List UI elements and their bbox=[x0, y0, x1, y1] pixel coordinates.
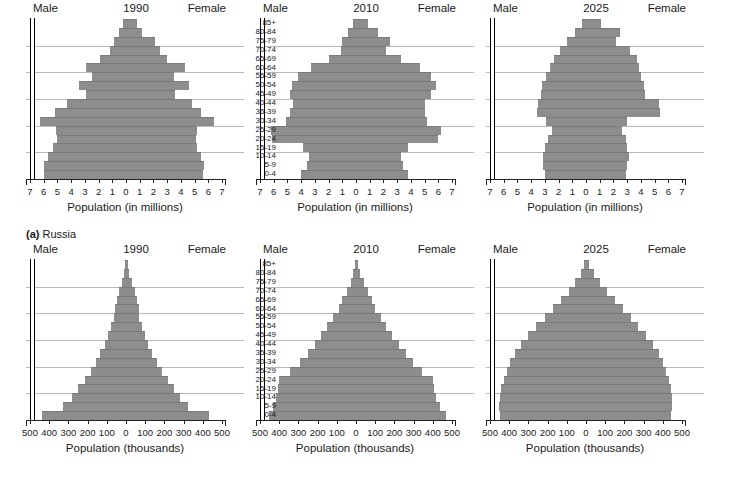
x-tick bbox=[195, 179, 196, 183]
x-tick bbox=[318, 420, 319, 424]
x-tick bbox=[342, 179, 343, 183]
x-tick-label: 400 bbox=[195, 427, 211, 438]
x-tick-labels: 5004003002001000100200300400500 bbox=[260, 427, 452, 440]
x-tick bbox=[605, 420, 606, 424]
x-tick-label: 1 bbox=[340, 186, 345, 197]
x-tick-label: 300 bbox=[520, 427, 536, 438]
x-tick-label: 5 bbox=[652, 186, 657, 197]
center-axis-layer bbox=[260, 260, 452, 420]
age-group-label: 65-69 bbox=[256, 296, 276, 305]
x-tick-label: 3 bbox=[82, 186, 87, 197]
x-tick bbox=[222, 420, 223, 424]
plot-area bbox=[30, 260, 222, 420]
x-tick-label: 2 bbox=[381, 186, 386, 197]
x-tick bbox=[298, 420, 299, 424]
panel-header: Male 2025 Female bbox=[460, 0, 710, 20]
x-tick-label: 3 bbox=[624, 186, 629, 197]
x-tick-label: 3 bbox=[394, 186, 399, 197]
panel-tajikistan-1990: Male 1990 Female 50040030020010001002003… bbox=[0, 241, 250, 463]
x-tick-label: 300 bbox=[290, 427, 306, 438]
x-tick bbox=[644, 420, 645, 424]
x-tick-label: 7 bbox=[679, 186, 684, 197]
x-tick-label: 2 bbox=[326, 186, 331, 197]
x-tick-label: 7 bbox=[27, 186, 32, 197]
year-label: 1990 bbox=[106, 243, 166, 256]
x-tick bbox=[545, 179, 546, 183]
x-tick-label: 4 bbox=[68, 186, 73, 197]
female-label: Female bbox=[418, 2, 456, 15]
x-tick bbox=[49, 420, 50, 424]
x-tick-label: 4 bbox=[178, 186, 183, 197]
x-tick bbox=[260, 179, 261, 183]
x-tick bbox=[433, 420, 434, 424]
x-axis-title: Population (thousands) bbox=[0, 441, 250, 455]
x-tick-label: 5 bbox=[192, 186, 197, 197]
x-tick bbox=[287, 179, 288, 183]
x-tick-label: 7 bbox=[219, 186, 224, 197]
x-tick-label: 500 bbox=[444, 427, 460, 438]
x-tick bbox=[682, 420, 683, 424]
x-tick bbox=[559, 179, 560, 183]
x-tick bbox=[548, 420, 549, 424]
x-tick-label: 5 bbox=[515, 186, 520, 197]
x-tick-label: 500 bbox=[214, 427, 230, 438]
x-tick bbox=[164, 420, 165, 424]
x-tick bbox=[567, 420, 568, 424]
x-tick bbox=[668, 179, 669, 183]
x-tick bbox=[504, 179, 505, 183]
x-tick bbox=[274, 179, 275, 183]
x-tick-label: 200 bbox=[80, 427, 96, 438]
female-label: Female bbox=[648, 2, 686, 15]
x-tick bbox=[641, 179, 642, 183]
x-axis-title: Population (thousands) bbox=[460, 441, 710, 455]
x-tick-label: 500 bbox=[482, 427, 498, 438]
age-group-label: 0-4 bbox=[264, 170, 276, 179]
x-tick-label: 500 bbox=[252, 427, 268, 438]
x-tick-label: 3 bbox=[312, 186, 317, 197]
x-tick bbox=[30, 179, 31, 183]
center-axis bbox=[490, 18, 495, 179]
x-tick bbox=[181, 179, 182, 183]
male-label: Male bbox=[263, 243, 288, 256]
x-tick bbox=[222, 179, 223, 183]
x-axis bbox=[490, 420, 682, 427]
x-tick bbox=[85, 179, 86, 183]
panel-russia-1990: Male 1990 Female 765432101234567 Populat… bbox=[0, 0, 250, 222]
x-tick-label: 200 bbox=[540, 427, 556, 438]
x-tick bbox=[452, 179, 453, 183]
x-tick bbox=[627, 179, 628, 183]
male-label: Male bbox=[33, 243, 58, 256]
x-tick bbox=[528, 420, 529, 424]
panel-header: Male 1990 Female bbox=[0, 0, 250, 20]
x-tick bbox=[356, 420, 357, 424]
x-tick-label: 6 bbox=[206, 186, 211, 197]
panel-header: Male 2010 Female bbox=[230, 241, 480, 261]
x-tick bbox=[140, 179, 141, 183]
x-tick bbox=[203, 420, 204, 424]
x-tick-label: 5 bbox=[55, 186, 60, 197]
x-tick bbox=[337, 420, 338, 424]
x-tick bbox=[490, 179, 491, 183]
x-tick-label: 2 bbox=[151, 186, 156, 197]
x-tick bbox=[394, 420, 395, 424]
x-tick-label: 0 bbox=[123, 427, 128, 438]
x-tick bbox=[663, 420, 664, 424]
x-tick bbox=[145, 420, 146, 424]
x-tick bbox=[438, 179, 439, 183]
x-tick-label: 3 bbox=[164, 186, 169, 197]
x-tick bbox=[517, 179, 518, 183]
x-tick bbox=[57, 179, 58, 183]
panel-tajikistan-2025: Male 2025 Female 50040030020010001002003… bbox=[460, 241, 710, 463]
x-tick-label: 1 bbox=[367, 186, 372, 197]
x-tick-label: 100 bbox=[329, 427, 345, 438]
x-tick-label: 400 bbox=[655, 427, 671, 438]
x-tick-label: 4 bbox=[638, 186, 643, 197]
male-label: Male bbox=[493, 243, 518, 256]
x-tick-label: 6 bbox=[666, 186, 671, 197]
x-tick bbox=[88, 420, 89, 424]
x-tick-label: 100 bbox=[99, 427, 115, 438]
x-tick-label: 7 bbox=[487, 186, 492, 197]
x-tick bbox=[208, 179, 209, 183]
x-axis-title: Population (in millions) bbox=[230, 200, 480, 214]
x-tick bbox=[30, 420, 31, 424]
